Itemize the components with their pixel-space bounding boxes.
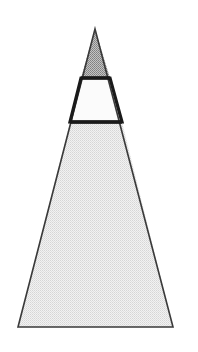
segmented-triangle-svg xyxy=(0,0,198,352)
figure-canvas xyxy=(0,0,198,352)
